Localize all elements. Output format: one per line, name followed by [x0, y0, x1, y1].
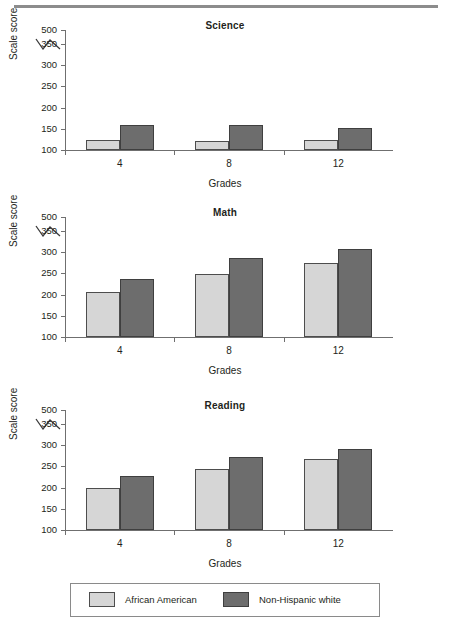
y-tick-label: 200: [41, 288, 57, 301]
y-tick-label: 200: [41, 101, 57, 114]
plot-area-reading: 100150200250300350500: [65, 410, 393, 530]
y-axis-title-science: Scale score: [8, 8, 19, 60]
y-tick-label: 500: [41, 403, 57, 416]
y-tick-label: 150: [41, 502, 57, 515]
y-tick-label: 200: [41, 481, 57, 494]
y-tick: 150: [61, 316, 66, 317]
y-tick: 150: [61, 129, 66, 130]
legend-item-african-american: African American: [89, 592, 197, 607]
x-tick-label-grade-4: 4: [100, 158, 140, 169]
x-axis-line: [65, 530, 393, 531]
y-tick-label: 250: [41, 266, 57, 279]
y-tick: 500: [61, 217, 66, 218]
x-axis-title-math: Grades: [0, 365, 450, 376]
y-axis-line: [65, 217, 66, 338]
x-tick-label-grade-8: 8: [209, 538, 249, 549]
y-tick-label: 150: [41, 122, 57, 135]
x-tick: [174, 530, 175, 535]
y-tick: 200: [61, 295, 66, 296]
x-axis-line: [65, 337, 393, 338]
bar-reading-grade12-african-american: [304, 459, 338, 530]
x-tick: [65, 530, 66, 535]
y-axis-line: [65, 410, 66, 531]
x-axis-line: [65, 150, 393, 151]
y-tick-label: 150: [41, 309, 57, 322]
x-tick-label-grade-8: 8: [209, 345, 249, 356]
bar-math-grade8-non-hispanic-white: [229, 258, 263, 337]
y-tick: 350: [61, 231, 66, 232]
bar-math-grade12-african-american: [304, 263, 338, 337]
x-tick: [284, 150, 285, 155]
plot-area-science: 100150200250300350500: [65, 30, 393, 150]
x-tick-label-grade-4: 4: [100, 538, 140, 549]
y-axis-line: [65, 30, 66, 151]
legend-swatch-dark: [223, 592, 249, 607]
header-rule: [14, 5, 438, 8]
bar-science-grade4-non-hispanic-white: [120, 125, 154, 150]
y-tick: 250: [61, 466, 66, 467]
y-tick: 150: [61, 509, 66, 510]
y-tick: 300: [61, 252, 66, 253]
bar-reading-grade4-non-hispanic-white: [120, 476, 154, 530]
y-tick: 350: [61, 44, 66, 45]
y-tick-label: 300: [41, 58, 57, 71]
bar-reading-grade8-non-hispanic-white: [229, 457, 263, 530]
y-tick: 200: [61, 108, 66, 109]
y-tick-label: 250: [41, 459, 57, 472]
legend-label-non-hispanic-white: Non-Hispanic white: [259, 594, 341, 605]
bar-math-grade12-non-hispanic-white: [338, 249, 372, 337]
chart-panel-reading: Reading Scale score 10015020025030035050…: [0, 398, 450, 576]
y-tick-label: 500: [41, 210, 57, 223]
y-tick-label: 100: [41, 143, 57, 156]
y-axis-title-math: Scale score: [8, 195, 19, 247]
bar-math-grade4-non-hispanic-white: [120, 279, 154, 337]
y-tick: 300: [61, 65, 66, 66]
chart-panel-math: Math Scale score 100150200250300350500 G…: [0, 205, 450, 390]
bar-science-grade12-african-american: [304, 140, 338, 150]
x-tick: [174, 150, 175, 155]
x-axis-title-reading: Grades: [0, 558, 450, 569]
bar-reading-grade4-african-american: [86, 488, 120, 530]
y-tick: 250: [61, 273, 66, 274]
bar-math-grade8-african-american: [195, 274, 229, 337]
x-tick-label-grade-4: 4: [100, 345, 140, 356]
y-tick-label: 300: [41, 245, 57, 258]
x-axis-title-science: Grades: [0, 178, 450, 189]
bar-reading-grade8-african-american: [195, 469, 229, 530]
x-tick: [65, 150, 66, 155]
y-tick-label: 100: [41, 523, 57, 536]
bar-science-grade4-african-american: [86, 140, 120, 150]
legend-item-non-hispanic-white: Non-Hispanic white: [223, 592, 341, 607]
bar-reading-grade12-non-hispanic-white: [338, 449, 372, 530]
y-tick-label: 350: [41, 417, 57, 430]
plot-area-math: 100150200250300350500: [65, 217, 393, 337]
x-tick: [174, 337, 175, 342]
x-tick-label-grade-8: 8: [209, 158, 249, 169]
y-tick-label: 250: [41, 79, 57, 92]
y-tick: 500: [61, 30, 66, 31]
x-tick: [284, 337, 285, 342]
y-axis-title-reading: Scale score: [8, 388, 19, 440]
x-tick-label-grade-12: 12: [318, 158, 358, 169]
x-tick: [65, 337, 66, 342]
chart-legend: African American Non-Hispanic white: [70, 583, 380, 617]
bar-science-grade8-african-american: [195, 141, 229, 150]
x-tick-label-grade-12: 12: [318, 538, 358, 549]
bar-math-grade4-african-american: [86, 292, 120, 337]
y-tick-label: 300: [41, 438, 57, 451]
bar-science-grade12-non-hispanic-white: [338, 128, 372, 150]
y-tick: 300: [61, 445, 66, 446]
y-tick-label: 350: [41, 224, 57, 237]
y-tick: 250: [61, 86, 66, 87]
bar-science-grade8-non-hispanic-white: [229, 125, 263, 150]
chart-panel-science: Science Scale score 10015020025030035050…: [0, 18, 450, 196]
x-tick: [284, 530, 285, 535]
y-tick-label: 350: [41, 37, 57, 50]
y-tick: 500: [61, 410, 66, 411]
y-tick-label: 500: [41, 23, 57, 36]
y-tick-label: 100: [41, 330, 57, 343]
y-tick: 200: [61, 488, 66, 489]
y-tick: 350: [61, 424, 66, 425]
legend-swatch-light: [89, 592, 115, 607]
x-tick-label-grade-12: 12: [318, 345, 358, 356]
